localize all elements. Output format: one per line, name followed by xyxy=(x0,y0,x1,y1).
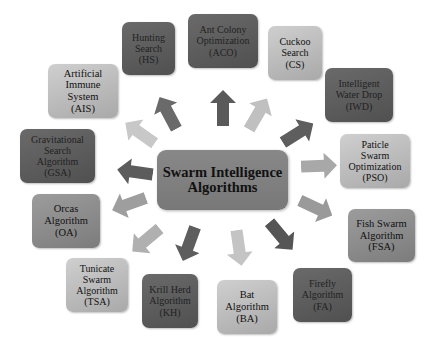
arrow-to-fsa-icon xyxy=(294,189,338,228)
arrow-to-iwd-icon xyxy=(276,112,320,153)
node-label: Krill Herd Algorithm (KH) xyxy=(149,284,191,318)
node-ba: Bat Algorithm (BA) xyxy=(217,280,277,334)
arrow-to-aco-icon xyxy=(210,90,236,126)
node-label: Intelligent Water Drop (IWD) xyxy=(336,78,383,112)
node-label: Fish Swarm Algorithm (FSA) xyxy=(356,218,406,253)
swarm-intelligence-diagram: Swarm Intelligence Algorithms Hunting Se… xyxy=(0,0,432,348)
node-label: Hunting Search (HS) xyxy=(132,32,165,66)
node-label: Bat Algorithm (BA) xyxy=(225,289,269,324)
node-hs: Hunting Search (HS) xyxy=(122,22,175,75)
node-fa: Firefly Algorithm (FA) xyxy=(293,268,352,322)
node-cs: Cuckoo Search (CS) xyxy=(268,26,322,80)
arrow-to-ba-icon xyxy=(224,228,255,267)
node-tsa: Tunicate Swarm Algorithm (TSA) xyxy=(66,258,128,312)
center-node: Swarm Intelligence Algorithms xyxy=(157,150,288,210)
node-pso: Paticle Swarm Optimization (PSO) xyxy=(340,134,410,188)
node-label: Ant Colony Optimization (ACO) xyxy=(197,24,250,58)
node-label: Orcas Algorithm (OA) xyxy=(44,203,88,238)
arrow-to-kh-icon xyxy=(171,223,208,266)
node-label: Paticle Swarm Optimization (PSO) xyxy=(349,139,402,184)
node-label: Cuckoo Search (CS) xyxy=(279,36,310,70)
node-label: Artificial Immune System (AIS) xyxy=(64,68,102,115)
center-label: Swarm Intelligence Algorithms xyxy=(163,165,283,195)
node-label: Gravitational Search Algorithm (GSA) xyxy=(31,134,84,179)
node-label: Firefly Algorithm (FA) xyxy=(302,278,344,312)
node-oa: Orcas Algorithm (OA) xyxy=(32,194,100,248)
node-ais: Artificial Immune System (AIS) xyxy=(48,64,118,118)
arrow-to-cs-icon xyxy=(238,92,279,136)
node-aco: Ant Colony Optimization (ACO) xyxy=(188,14,258,68)
arrow-to-oa-icon xyxy=(108,186,151,223)
arrow-to-fa-icon xyxy=(259,214,302,258)
arrow-to-gsa-icon xyxy=(115,157,154,188)
node-gsa: Gravitational Search Algorithm (GSA) xyxy=(20,129,95,183)
arrow-to-tsa-icon xyxy=(124,218,168,261)
node-iwd: Intelligent Water Drop (IWD) xyxy=(325,68,393,122)
node-label: Tunicate Swarm Algorithm (TSA) xyxy=(76,263,118,308)
arrow-to-pso-icon xyxy=(301,152,338,179)
node-kh: Krill Herd Algorithm (KH) xyxy=(142,274,198,328)
node-fsa: Fish Swarm Algorithm (FSA) xyxy=(348,209,415,262)
